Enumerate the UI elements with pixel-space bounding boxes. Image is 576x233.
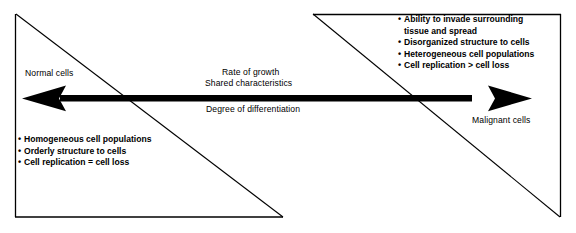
- list-item-label: Disorganized structure to cells: [404, 37, 530, 49]
- list-item: • Cell replication > cell loss: [398, 60, 534, 72]
- left-frame-hypotenuse: [16, 14, 283, 217]
- malignant-cells-pole-label: Malignant cells: [472, 115, 530, 125]
- list-item-label: Cell replication > cell loss: [404, 60, 509, 72]
- list-item: • Homogeneous cell populations: [18, 134, 151, 146]
- list-item: • Ability to invade surrounding tissue a…: [398, 14, 534, 37]
- list-item-label: Orderly structure to cells: [24, 146, 126, 158]
- arrow-head-right-icon: [488, 86, 532, 112]
- normal-cells-pole-label: Normal cells: [25, 68, 73, 78]
- arrow-head-left-icon: [22, 86, 66, 112]
- axis-label-shared-characteristics: Shared characteristics: [205, 78, 292, 88]
- list-item-label: Homogeneous cell populations: [24, 134, 151, 146]
- list-item-label: Ability to invade surrounding tissue and…: [404, 14, 523, 37]
- cancer-continuum-figure: Normal cells Malignant cells Rate of gro…: [0, 0, 576, 233]
- list-item-label: Heterogeneous cell populations: [404, 49, 534, 61]
- list-item: • Disorganized structure to cells: [398, 37, 534, 49]
- list-item: • Cell replication = cell loss: [18, 157, 151, 169]
- list-item-label: Cell replication = cell loss: [24, 157, 129, 169]
- list-item: • Orderly structure to cells: [18, 146, 151, 158]
- normal-cells-triangle: [15, 14, 283, 217]
- list-item: • Heterogeneous cell populations: [398, 49, 534, 61]
- axis-label-rate-of-growth: Rate of growth: [222, 67, 279, 77]
- normal-cells-bullet-list: • Homogeneous cell populations • Orderly…: [18, 134, 151, 169]
- malignant-cells-bullet-list: • Ability to invade surrounding tissue a…: [398, 14, 534, 72]
- axis-label-degree-of-differentiation: Degree of differentiation: [206, 104, 300, 114]
- arrow-shaft: [60, 95, 472, 102]
